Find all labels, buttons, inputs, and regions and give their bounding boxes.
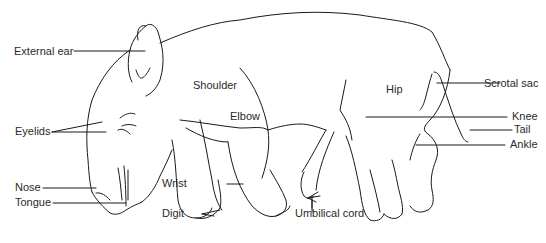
pig-outline-drawing: [0, 0, 546, 243]
label-shoulder: Shoulder: [193, 79, 237, 92]
label-elbow: Elbow: [230, 110, 260, 123]
label-external-ear: External ear: [14, 45, 73, 58]
label-tongue: Tongue: [15, 196, 51, 209]
label-tail: Tail: [514, 123, 531, 136]
label-umbilical-cord: Umbilical cord: [295, 207, 364, 220]
label-digit: Digit: [162, 207, 184, 220]
label-knee: Knee: [512, 110, 538, 123]
label-hip: Hip: [386, 83, 403, 96]
label-eyelids: Eyelids: [15, 125, 50, 138]
fetal-pig-diagram: External ear Eyelids Nose Tongue Shoulde…: [0, 0, 546, 243]
label-ankle: Ankle: [510, 138, 538, 151]
label-scrotal-sac: Scrotal sac: [484, 77, 538, 90]
label-wrist: Wrist: [162, 177, 187, 190]
label-nose: Nose: [15, 181, 41, 194]
